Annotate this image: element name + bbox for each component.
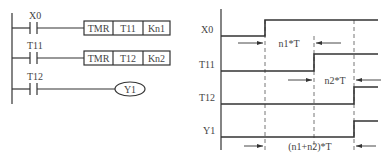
timer-constant-kn1: Kn1 [148, 23, 165, 34]
signal-label-t11: T11 [199, 59, 215, 70]
instruction-tmr-1: TMR [88, 23, 110, 34]
plc-timer-diagram: X0 TMR T11 Kn1 T11 TMR T12 Kn2 [0, 0, 387, 162]
rung-3: T12 Y1 [12, 71, 145, 96]
contact-label-t11: T11 [27, 40, 43, 51]
contact-label-t12: T12 [27, 71, 43, 82]
waveform-y1 [221, 121, 378, 137]
contact-label-x0: X0 [29, 10, 41, 21]
waveform-x0 [221, 20, 378, 36]
interval-total-label: (n1+n2)*T [288, 141, 331, 153]
rung-1: X0 TMR T11 Kn1 [12, 10, 170, 35]
timer-operand-t12: T12 [120, 53, 136, 64]
coil-label-y1: Y1 [124, 84, 136, 95]
timer-constant-kn2: Kn2 [148, 53, 165, 64]
interval-n1-label: n1*T [278, 38, 299, 49]
ladder-diagram: X0 TMR T11 Kn1 T11 TMR T12 Kn2 [12, 10, 170, 104]
waveform-t11 [221, 54, 378, 71]
instruction-tmr-2: TMR [88, 53, 110, 64]
signal-label-x0: X0 [201, 24, 213, 35]
waveform-t12 [221, 87, 378, 104]
timing-diagram: X0 n1*T T11 n2*T T12 Y1 (n1+n2)*T [199, 9, 381, 153]
rung-2: T11 TMR T12 Kn2 [12, 40, 170, 65]
signal-label-y1: Y1 [203, 125, 215, 136]
signal-label-t12: T12 [199, 92, 215, 103]
timer-operand-t11: T11 [120, 23, 136, 34]
interval-n2-label: n2*T [324, 75, 345, 86]
